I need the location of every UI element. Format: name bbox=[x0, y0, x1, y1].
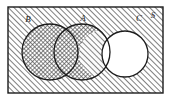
universal-set-label: S bbox=[151, 10, 156, 20]
venn-diagram-canvas: B A C S bbox=[0, 0, 172, 102]
venn-diagram-figure: B A C S bbox=[0, 0, 172, 102]
set-c-label: C bbox=[136, 13, 143, 23]
set-a-label: A bbox=[79, 13, 86, 23]
set-b-label: B bbox=[25, 14, 31, 24]
